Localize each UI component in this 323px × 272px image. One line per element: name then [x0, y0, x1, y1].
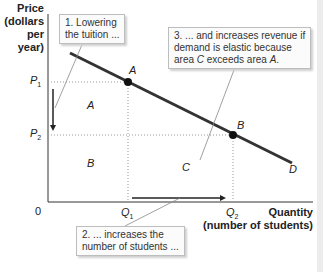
callout-text: demand is elastic because [174, 42, 305, 54]
y-axis-label: Price (dollars per year) [0, 2, 44, 54]
callout-increases-students: 2. ... increases the number of students … [76, 226, 185, 256]
y-label-line: per year) [0, 28, 44, 54]
callout-increases-revenue: 3. ... and increases revenue if demand i… [168, 27, 311, 69]
callout-1-leader [55, 40, 84, 108]
curve-d-label: D [289, 163, 297, 175]
point-b-label: B [237, 119, 244, 131]
y-label-line: (dollars [0, 15, 44, 28]
q2-sub: 2 [235, 213, 239, 220]
callout-fragment: area [174, 54, 197, 65]
q2-main: Q [226, 206, 235, 218]
callout-text: 1. Lowering [65, 17, 119, 29]
callout-text: the tuition ... [65, 29, 119, 41]
origin-label: 0 [35, 205, 41, 217]
demand-curve [70, 53, 292, 163]
callout-fragment: exceeds area [204, 54, 270, 65]
x-axis-label: Quantity (number of students) [203, 206, 313, 232]
area-a-label: A [87, 99, 94, 111]
p1-label: P1 [30, 74, 41, 86]
area-c-label: C [182, 161, 190, 173]
q1-label: Q1 [121, 206, 133, 218]
callout-3-leader [200, 62, 237, 160]
point-b-dot [229, 131, 237, 139]
point-a-label: A [129, 64, 136, 76]
callout-text: area C exceeds area A. [174, 54, 305, 66]
area-b-label: B [87, 157, 94, 169]
q1-sub: 1 [130, 213, 134, 220]
x-label-line: Quantity [203, 206, 313, 219]
callout-lowering-tuition: 1. Lowering the tuition ... [59, 14, 125, 44]
callout-text: 2. ... increases the [82, 229, 179, 241]
callout-fragment: . [276, 54, 279, 65]
y-label-line: Price [0, 2, 44, 15]
q2-label: Q2 [226, 206, 238, 218]
q1-main: Q [121, 206, 130, 218]
p2-label: P2 [30, 127, 41, 139]
callout-text: number of students ... [82, 241, 179, 253]
x-label-line: (number of students) [203, 219, 313, 232]
callout-fragment: C [197, 54, 204, 65]
p2-sub: 2 [37, 134, 41, 141]
p1-sub: 1 [37, 81, 41, 88]
price-arrow-head [50, 125, 56, 131]
callout-text: 3. ... and increases revenue if [174, 30, 305, 42]
point-a-dot [124, 78, 132, 86]
quantity-arrow-head [220, 195, 226, 201]
